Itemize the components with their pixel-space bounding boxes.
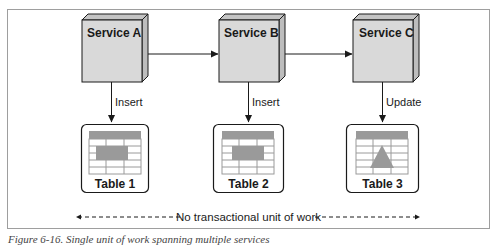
- service-c-label: Service C: [359, 26, 414, 40]
- table-3-label: Table 3: [362, 177, 403, 191]
- table-rectangle-highlight-icon: [222, 131, 274, 174]
- service-a-node: Service A: [82, 14, 148, 82]
- service-c-node: Service C: [353, 14, 419, 82]
- edge-label-insert-1: Insert: [115, 96, 143, 108]
- service-b-node: Service B: [219, 14, 285, 82]
- table-rectangle-highlight-icon: [89, 131, 141, 174]
- figure-caption: Figure 6-16. Single unit of work spannin…: [8, 233, 269, 245]
- service-a-label: Service A: [87, 26, 142, 40]
- edge-label-update: Update: [386, 96, 421, 108]
- edge-label-insert-2: Insert: [252, 96, 280, 108]
- span-label: No transactional unit of work: [176, 211, 321, 223]
- table-3-node: Table 3: [347, 125, 419, 193]
- table-1-label: Table 1: [95, 177, 136, 191]
- table-2-label: Table 2: [228, 177, 269, 191]
- service-b-label: Service B: [224, 26, 279, 40]
- table-1-node: Table 1: [82, 125, 149, 193]
- table-2-node: Table 2: [214, 125, 284, 193]
- table-triangle-highlight-icon: [356, 131, 408, 174]
